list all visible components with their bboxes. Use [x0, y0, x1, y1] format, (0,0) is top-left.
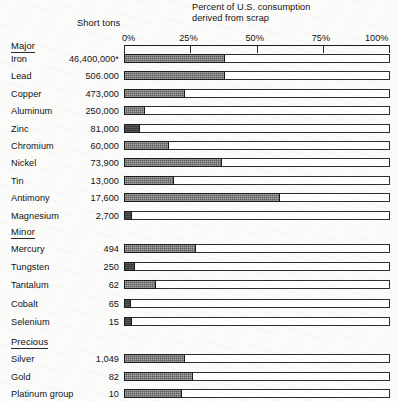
axis-tick-label: 0% [122, 33, 135, 43]
bar-fill [124, 71, 225, 80]
bar-track [124, 262, 390, 271]
chart-row: Antimony17,600 [0, 192, 398, 206]
bar-fill [124, 211, 132, 220]
row-value-short-tons: 1,049 [19, 353, 119, 365]
group-title-major: Major [11, 40, 35, 53]
group-title-precious: Precious [11, 336, 48, 349]
bar-fill [124, 158, 222, 167]
chart-row: Tantalum62 [0, 279, 398, 293]
bar-fill [124, 299, 131, 308]
axis-tick-mark [190, 45, 191, 53]
chart-row: Lead506.000 [0, 70, 398, 84]
bar-fill [124, 54, 225, 63]
row-value-short-tons: 65 [19, 298, 119, 310]
bar-fill [124, 106, 145, 115]
row-value-short-tons: 46,400,000* [19, 53, 119, 65]
axis-tick-label: 75% [312, 33, 330, 43]
row-value-short-tons: 250 [19, 261, 119, 273]
chart-row: Iron46,400,000* [0, 53, 398, 67]
bar-fill [124, 176, 174, 185]
axis-baseline [124, 45, 390, 46]
row-value-short-tons: 13,000 [19, 175, 119, 187]
scrap-consumption-chart: Percent of U.S. consumption derived from… [0, 0, 398, 401]
bar-track [124, 106, 390, 115]
chart-row: Platinum group10 [0, 388, 398, 401]
bar-track [124, 124, 390, 133]
row-value-short-tons: 15 [19, 316, 119, 328]
bar-track [124, 317, 390, 326]
row-value-short-tons: 494 [19, 243, 119, 255]
bar-track [124, 211, 390, 220]
chart-row: Gold82 [0, 371, 398, 385]
chart-row: Cobalt65 [0, 298, 398, 312]
chart-row: Tungsten250 [0, 261, 398, 275]
axis-tick-label: 25% [179, 33, 197, 43]
bar-fill [124, 124, 140, 133]
axis-tick-mark [323, 45, 324, 53]
bar-fill [124, 389, 182, 398]
chart-row: Aluminum250,000 [0, 105, 398, 119]
row-value-short-tons: 81,000 [19, 123, 119, 135]
row-value-short-tons: 10 [19, 388, 119, 400]
bar-fill [124, 280, 156, 289]
chart-row: Tin13,000 [0, 175, 398, 189]
row-value-short-tons: 82 [19, 371, 119, 383]
row-value-short-tons: 250,000 [19, 105, 119, 117]
row-value-short-tons: 473,000 [19, 88, 119, 100]
bar-fill [124, 89, 185, 98]
chart-row: Selenium15 [0, 316, 398, 330]
row-value-short-tons: 17,600 [19, 192, 119, 204]
chart-row: Silver1,049 [0, 353, 398, 367]
row-value-short-tons: 60,000 [19, 140, 119, 152]
chart-row: Nickel73,900 [0, 157, 398, 171]
bar-fill [124, 354, 185, 363]
bar-track [124, 299, 390, 308]
bar-fill [124, 193, 280, 202]
bar-fill [124, 317, 132, 326]
chart-row: Magnesium2,700 [0, 210, 398, 224]
chart-row: Copper473,000 [0, 88, 398, 102]
chart-row: Chromium60,000 [0, 140, 398, 154]
bar-track [124, 280, 390, 289]
row-value-short-tons: 2,700 [19, 210, 119, 222]
axis-tick-label: 100% [365, 33, 389, 43]
row-value-short-tons: 73,900 [19, 157, 119, 169]
chart-row: Zinc81,000 [0, 123, 398, 137]
group-title-minor: Minor [11, 226, 35, 239]
bar-fill [124, 262, 135, 271]
chart-row: Mercury494 [0, 243, 398, 257]
bar-fill [124, 372, 193, 381]
axis-tick-mark [389, 45, 390, 53]
bar-fill [124, 244, 196, 253]
row-value-short-tons: 62 [19, 279, 119, 291]
row-value-short-tons: 506.000 [19, 70, 119, 82]
bar-fill [124, 141, 169, 150]
axis-tick-mark [257, 45, 258, 53]
axis-tick-label: 50% [246, 33, 264, 43]
